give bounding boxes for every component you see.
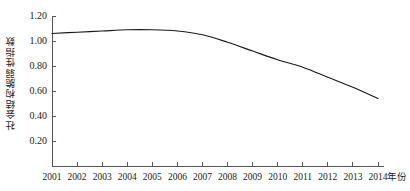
axes (52, 16, 384, 166)
x-axis-title: 年份 (387, 172, 407, 182)
x-tick-label: 2003 (88, 172, 116, 182)
y-tick-label: 0.40 (13, 111, 47, 121)
x-tick-label: 2011 (289, 172, 317, 182)
y-tick-label: 1.00 (13, 36, 47, 46)
x-tick-label: 2006 (163, 172, 191, 182)
plot-area (0, 0, 410, 191)
y-tick-label: 1.20 (13, 11, 47, 21)
x-tick-label: 2009 (239, 172, 267, 182)
x-tick-label: 2012 (314, 172, 342, 182)
x-tick-label: 2007 (188, 172, 216, 182)
x-tick-label: 2005 (138, 172, 166, 182)
y-tick-label: 0.20 (13, 136, 47, 146)
x-tick-label: 2002 (63, 172, 91, 182)
chart-figure: 社会结构脆弱性指数 0.200.400.600.801.001.20 20012… (0, 0, 410, 191)
x-tick-label: 2013 (339, 172, 367, 182)
x-tick-label: 2010 (264, 172, 292, 182)
y-tick-label: 0.80 (13, 61, 47, 71)
data-line-series-1 (52, 30, 378, 99)
x-tick-label: 2008 (214, 172, 242, 182)
y-tick-label: 0.60 (13, 86, 47, 96)
x-tick-label: 2001 (38, 172, 66, 182)
x-tick-label: 2004 (113, 172, 141, 182)
